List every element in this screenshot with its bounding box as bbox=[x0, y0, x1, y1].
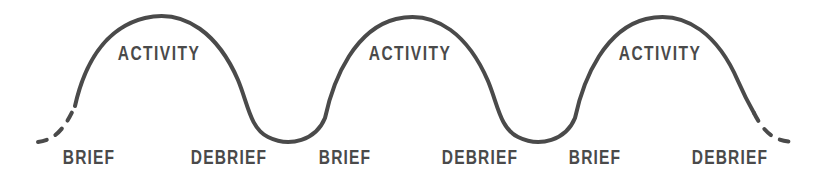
right-exit-dashed-tail bbox=[754, 113, 794, 142]
phase-label-debrief-2: DEBRIEF bbox=[442, 146, 518, 167]
activity-label-1: ACTIVITY bbox=[118, 42, 201, 63]
activity-label-3: ACTIVITY bbox=[619, 42, 702, 63]
activity-label-2: ACTIVITY bbox=[369, 42, 452, 63]
phase-label-debrief-3: DEBRIEF bbox=[692, 146, 768, 167]
cycle-diagram: ACTIVITY ACTIVITY ACTIVITY BRIEF DEBRIEF… bbox=[0, 0, 838, 187]
left-entry-dashed-tail bbox=[38, 106, 75, 142]
activity-wave-path bbox=[75, 16, 754, 142]
phase-label-brief-2: BRIEF bbox=[319, 146, 372, 167]
phase-label-brief-1: BRIEF bbox=[63, 146, 116, 167]
phase-label-brief-3: BRIEF bbox=[569, 146, 622, 167]
phase-label-debrief-1: DEBRIEF bbox=[191, 146, 267, 167]
